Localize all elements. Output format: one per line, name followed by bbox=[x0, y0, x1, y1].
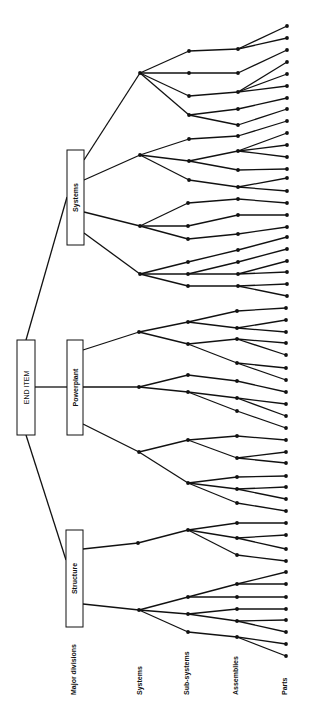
tree-node-dot bbox=[186, 481, 190, 485]
tree-connector-line bbox=[140, 139, 189, 155]
tree-node-dot bbox=[236, 232, 240, 236]
tree-connector-line bbox=[238, 38, 287, 49]
tree-connector-line bbox=[237, 489, 286, 499]
tree-node-dot bbox=[138, 224, 142, 228]
tree-node-dot bbox=[284, 509, 288, 513]
tree-connector-line bbox=[140, 155, 189, 161]
tree-node-dot bbox=[284, 402, 288, 406]
tree-node-dot bbox=[236, 149, 240, 153]
tree-node-dot bbox=[235, 582, 239, 586]
tree-connector-line bbox=[237, 381, 286, 392]
tree-node-dot bbox=[187, 49, 191, 53]
tree-connector-line bbox=[238, 178, 287, 187]
tree-connector-line bbox=[237, 572, 286, 584]
tree-connector-line bbox=[237, 620, 286, 621]
tree-node-dot bbox=[186, 373, 190, 377]
tree-connector-line bbox=[188, 614, 237, 621]
tree-node-dot bbox=[235, 595, 239, 599]
level-labels: Major divisions Systems Sub-systems Asse… bbox=[70, 644, 288, 695]
tree-connector-line bbox=[139, 452, 188, 483]
tree-connector-line bbox=[237, 308, 286, 311]
systems-division-label: Systems bbox=[72, 183, 80, 212]
tree-connector-line bbox=[238, 50, 287, 73]
tree-node-dot bbox=[285, 259, 289, 263]
tree-connector-line bbox=[188, 584, 237, 597]
tree-connector-line bbox=[237, 621, 286, 632]
tree-node-dot bbox=[285, 213, 289, 217]
tree-node-dot bbox=[285, 60, 289, 64]
tree-connector-line bbox=[237, 476, 286, 477]
tree-node-dot bbox=[235, 501, 239, 505]
tree-node-dot bbox=[186, 390, 190, 394]
tree-node-dot bbox=[284, 378, 288, 382]
tree-node-dot bbox=[187, 137, 191, 141]
structure-division-box: Structure bbox=[66, 530, 83, 627]
tree-connector-line bbox=[188, 632, 237, 637]
tree-node-dot bbox=[284, 353, 288, 357]
tree-node-dot bbox=[137, 450, 141, 454]
tree-connector-line bbox=[238, 98, 287, 109]
tree-node-dot bbox=[284, 497, 288, 501]
tree-node-dot bbox=[285, 48, 289, 52]
tree-connector-line bbox=[84, 233, 140, 274]
tree-connector-line bbox=[139, 322, 188, 332]
tree-node-dot bbox=[285, 119, 289, 123]
tree-node-dot bbox=[236, 248, 240, 252]
tree-node-dot bbox=[138, 71, 142, 75]
powerplant-division-box: Powerplant bbox=[67, 340, 83, 435]
end-item-box: END ITEM bbox=[17, 340, 35, 435]
tree-connector-line bbox=[189, 109, 238, 115]
tree-node-dot bbox=[235, 409, 239, 413]
tree-connector-line bbox=[139, 387, 188, 392]
tree-node-dot bbox=[284, 570, 288, 574]
tree-node-dot bbox=[285, 270, 289, 274]
tree-node-dot bbox=[235, 396, 239, 400]
tree-connector-line bbox=[188, 311, 237, 322]
tree-connector-line bbox=[140, 274, 188, 286]
tree-node-dot bbox=[284, 426, 288, 430]
tree-connector-line bbox=[189, 136, 238, 139]
tree-connector-line bbox=[26, 197, 67, 340]
tree-connector-line bbox=[139, 440, 188, 452]
tree-node-dot bbox=[235, 337, 239, 341]
tree-node-dot bbox=[235, 361, 239, 365]
tree-connector-line bbox=[26, 435, 66, 560]
tree-node-dot bbox=[284, 533, 288, 537]
tree-node-dot bbox=[285, 294, 289, 298]
tree-node-dot bbox=[284, 654, 288, 658]
tree-node-dot bbox=[186, 201, 190, 205]
tree-connector-line bbox=[188, 609, 237, 614]
tree-node-dot bbox=[285, 72, 289, 76]
tree-connector-line bbox=[237, 458, 286, 463]
tree-node-dot bbox=[284, 642, 288, 646]
tree-node-dot bbox=[235, 475, 239, 479]
tree-node-dot bbox=[285, 176, 289, 180]
end-item-label: END ITEM bbox=[23, 371, 30, 405]
tree-connector-line bbox=[238, 26, 287, 49]
tree-node-dot bbox=[236, 90, 240, 94]
tree-node-dot bbox=[187, 159, 191, 163]
tree-node-dot bbox=[285, 247, 289, 251]
tree-node-dot bbox=[186, 260, 190, 264]
tree-connector-line bbox=[238, 151, 287, 157]
tree-connector-line bbox=[140, 73, 189, 96]
level-label-systems: Systems bbox=[136, 666, 144, 695]
tree-connector-line bbox=[84, 212, 140, 226]
tree-connector-line bbox=[188, 234, 238, 239]
tree-node-dot bbox=[236, 260, 240, 264]
tree-connector-line bbox=[140, 51, 189, 73]
tree-node-dot bbox=[235, 456, 239, 460]
tree-node-dot bbox=[235, 619, 239, 623]
tree-node-dot bbox=[285, 96, 289, 100]
tree-node-dot bbox=[235, 326, 239, 330]
tree-node-dot bbox=[285, 189, 289, 193]
tree-node-dot bbox=[236, 47, 240, 51]
tree-connector-line bbox=[238, 237, 287, 250]
tree-node-dot bbox=[285, 107, 289, 111]
tree-node-dot bbox=[136, 541, 140, 545]
tree-connector-line bbox=[189, 161, 238, 170]
tree-node-dot bbox=[236, 213, 240, 217]
tree-node-dot bbox=[284, 414, 288, 418]
tree-node-dot bbox=[284, 438, 288, 442]
tree-connector-line bbox=[84, 155, 140, 180]
